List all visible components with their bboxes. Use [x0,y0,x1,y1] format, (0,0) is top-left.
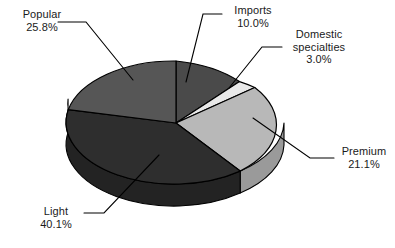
slice-label-domestic-name-line1: Domestic [282,28,356,41]
slice-label-light: Light 40.1% [28,205,84,230]
slice-label-domestic-specialties: Domestic specialties 3.0% [282,28,356,66]
slice-label-premium: Premium 21.1% [334,145,394,170]
slice-label-domestic-percent: 3.0% [282,53,356,66]
slice-label-light-name: Light [28,205,84,218]
slice-label-popular-name: Popular [4,8,80,21]
slice-label-light-percent: 40.1% [28,218,84,231]
pie-top-face [66,61,276,184]
slice-label-imports-name: Imports [222,4,284,17]
slice-label-domestic-name-line2: specialties [282,41,356,54]
slice-label-premium-percent: 21.1% [334,158,394,171]
slice-label-premium-name: Premium [334,145,394,158]
slice-label-popular-percent: 25.8% [4,21,80,34]
slice-label-popular: Popular 25.8% [4,8,80,33]
slice-label-imports-percent: 10.0% [222,17,284,30]
slice-label-imports: Imports 10.0% [222,4,284,29]
